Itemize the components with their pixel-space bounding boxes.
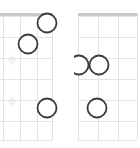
nut [78, 13, 138, 16]
finger-dot[interactable] [19, 35, 38, 54]
chord-diagram-canvas [0, 0, 140, 148]
chord-diagram-left[interactable] [0, 0, 60, 148]
chord-diagram-right[interactable] [74, 0, 140, 148]
finger-dot[interactable] [88, 99, 107, 118]
finger-dot[interactable] [74, 56, 89, 75]
finger-dot[interactable] [38, 14, 57, 33]
chord-diagram-right-svg [74, 0, 140, 148]
chord-diagram-left-svg [0, 0, 60, 148]
finger-dot[interactable] [90, 56, 109, 75]
finger-dot[interactable] [38, 99, 57, 118]
